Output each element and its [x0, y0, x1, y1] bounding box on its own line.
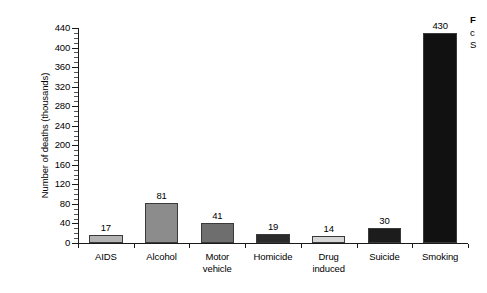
x-axis-tick [412, 244, 413, 248]
y-axis-tick-minor [74, 170, 78, 171]
y-axis-tick-label-text: 400 [44, 43, 70, 53]
y-axis-tick-minor [74, 101, 78, 102]
y-axis-tick-label-text: 40 [44, 218, 70, 228]
y-axis-tick-minor [74, 57, 78, 58]
y-axis-tick-major [72, 184, 78, 185]
y-axis-tick-label: 400 [42, 43, 70, 53]
x-axis-tick [134, 244, 135, 248]
y-axis-tick-major [72, 204, 78, 205]
y-axis-tick-minor [74, 72, 78, 73]
y-axis-tick-minor [74, 52, 78, 53]
y-axis-tick-label-text: 280 [44, 101, 70, 111]
bar-value-label: 41 [189, 210, 245, 221]
y-axis-tick-minor [74, 136, 78, 137]
y-axis-tick-major [72, 28, 78, 29]
y-axis-tick-label-text: 240 [44, 121, 70, 131]
y-axis-tick-minor [74, 62, 78, 63]
x-axis-category-label: Motorvehicle [189, 251, 245, 275]
y-axis-tick-minor [74, 175, 78, 176]
y-axis-tick-label: 440 [42, 23, 70, 33]
bar-chart-figure: Number of deaths (thousands) 04080120160… [0, 0, 487, 293]
bar [256, 234, 289, 243]
y-axis-tick-minor [74, 179, 78, 180]
y-axis-tick-major [72, 48, 78, 49]
y-axis-tick-label: 40 [42, 218, 70, 228]
y-axis-tick-minor [74, 189, 78, 190]
bar-value-label: 14 [301, 223, 357, 234]
y-axis-tick-minor [74, 238, 78, 239]
bar-value-label: 17 [78, 222, 134, 233]
y-axis-tick-label-text: 440 [44, 23, 70, 33]
y-axis-tick-minor [74, 43, 78, 44]
y-axis-tick-label: 160 [42, 160, 70, 170]
y-axis-tick-major [72, 126, 78, 127]
x-axis-tick [78, 244, 79, 248]
y-axis-tick-minor [74, 160, 78, 161]
x-axis-category-label-line: AIDS [78, 251, 134, 263]
y-axis-tick-label: 120 [42, 179, 70, 189]
bar [145, 203, 178, 243]
y-axis-tick-label: 320 [42, 82, 70, 92]
x-axis-category-label: Smoking [412, 251, 468, 263]
y-axis-tick-label: 240 [42, 121, 70, 131]
x-axis-category-label: Druginduced [301, 251, 357, 275]
y-axis-tick-major [72, 145, 78, 146]
y-axis-tick-minor [74, 150, 78, 151]
x-axis-category-label-line: Smoking [412, 251, 468, 263]
y-axis-tick-major [72, 87, 78, 88]
y-axis-tick-minor [74, 140, 78, 141]
y-axis-tick-major [72, 67, 78, 68]
x-axis-tick [245, 244, 246, 248]
y-axis-tick-minor [74, 121, 78, 122]
y-axis-tick-minor [74, 214, 78, 215]
x-axis-category-label: Alcohol [134, 251, 190, 263]
y-axis-tick-minor [74, 38, 78, 39]
y-axis-tick-label-text: 200 [44, 140, 70, 150]
bar [423, 33, 456, 243]
y-axis-tick-minor [74, 219, 78, 220]
y-axis-tick-label-text: 320 [44, 82, 70, 92]
x-axis-category-label: Homicide [245, 251, 301, 263]
bar [368, 228, 401, 243]
y-axis-tick-minor [74, 131, 78, 132]
y-axis-tick-minor [74, 96, 78, 97]
x-axis-category-label-line: Alcohol [134, 251, 190, 263]
y-axis-tick-minor [74, 111, 78, 112]
y-axis-tick-minor [74, 155, 78, 156]
figure-caption-line-1: c [470, 27, 487, 40]
y-axis-tick-minor [74, 82, 78, 83]
x-axis-category-label-line: induced [301, 263, 357, 275]
x-axis-category-label-line: vehicle [189, 263, 245, 275]
x-axis-category-label: Suicide [357, 251, 413, 263]
y-axis-tick-label: 280 [42, 101, 70, 111]
y-axis-tick-label-text: 160 [44, 160, 70, 170]
figure-caption-title: F [470, 14, 476, 25]
y-axis-tick-label: 360 [42, 62, 70, 72]
bar-value-label: 19 [245, 221, 301, 232]
x-axis-tick [468, 244, 469, 248]
bar-value-label: 30 [357, 215, 413, 226]
y-axis-tick-label-text: 0 [44, 238, 70, 248]
y-axis-tick-label: 200 [42, 140, 70, 150]
y-axis-tick-minor [74, 77, 78, 78]
y-axis-tick-label: 80 [42, 199, 70, 209]
x-axis-category-label-line: Drug [301, 251, 357, 263]
y-axis-tick-label: 0 [42, 238, 70, 248]
y-axis-tick-label-text: 120 [44, 179, 70, 189]
x-axis-line [78, 243, 468, 244]
y-axis-tick-minor [74, 33, 78, 34]
y-axis-tick-minor [74, 116, 78, 117]
x-axis-category-label-line: Homicide [245, 251, 301, 263]
y-axis-tick-major [72, 165, 78, 166]
y-axis-line [78, 28, 79, 244]
x-axis-category-label-line: Suicide [357, 251, 413, 263]
y-axis-tick-minor [74, 209, 78, 210]
bar [89, 235, 122, 243]
y-axis-tick-minor [74, 233, 78, 234]
bar [312, 236, 345, 243]
y-axis-tick-minor [74, 92, 78, 93]
x-axis-tick [189, 244, 190, 248]
x-axis-tick [357, 244, 358, 248]
y-axis-tick-label-text: 360 [44, 62, 70, 72]
bar-value-label: 430 [412, 20, 468, 31]
